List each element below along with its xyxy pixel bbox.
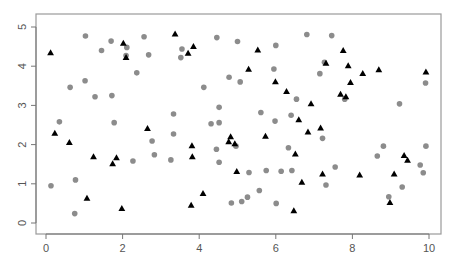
triangle-point <box>113 154 120 160</box>
circle-point <box>179 46 185 52</box>
circle-point <box>273 43 279 49</box>
x-axis: 0246810 <box>43 234 435 254</box>
circle-point <box>420 170 426 176</box>
circle-point <box>178 55 184 61</box>
circle-point <box>278 168 284 174</box>
circle-point <box>48 183 54 189</box>
circle-point <box>239 199 245 205</box>
circle-point <box>289 168 295 174</box>
circle-point <box>99 48 105 54</box>
circle-point <box>216 159 222 165</box>
plot-frame <box>36 14 441 234</box>
triangle-point <box>340 47 347 53</box>
circle-point <box>152 152 158 158</box>
circle-point <box>288 112 294 118</box>
circle-point <box>235 39 241 45</box>
circle-point <box>141 34 147 40</box>
triangle-point <box>375 66 382 72</box>
circle-point <box>201 85 207 91</box>
triangle-point <box>254 47 261 53</box>
circle-point <box>374 153 380 159</box>
y-axis: 012345 <box>16 24 36 226</box>
circle-point <box>226 74 232 80</box>
circle-point <box>294 96 300 102</box>
circle-point <box>149 138 155 144</box>
x-tick-label: 8 <box>349 242 355 254</box>
circle-point <box>83 33 89 39</box>
circle-point <box>332 164 338 170</box>
circle-point <box>111 120 117 126</box>
y-tick-label: 4 <box>16 63 28 69</box>
circle-point <box>381 143 387 149</box>
circle-point <box>399 184 405 190</box>
triangle-point <box>245 66 252 72</box>
triangle-point <box>120 40 127 46</box>
circle-point <box>386 194 392 200</box>
circle-point <box>257 188 263 194</box>
triangle-point <box>387 199 394 205</box>
circle-point <box>67 85 73 91</box>
circle-point <box>168 157 174 163</box>
triangle-point <box>47 49 54 55</box>
circle-point <box>229 200 235 206</box>
triangle-point <box>118 205 125 211</box>
triangle-point <box>359 70 366 76</box>
triangle-point <box>227 133 234 139</box>
circle-point <box>109 93 115 99</box>
triangle-point <box>262 133 269 139</box>
circle-point <box>263 168 269 174</box>
x-tick-label: 0 <box>43 242 49 254</box>
circle-point <box>171 111 177 117</box>
y-tick-label: 0 <box>16 220 28 226</box>
triangle-point <box>308 100 315 106</box>
triangle-point <box>401 152 408 158</box>
circle-point <box>272 118 278 124</box>
triangle-point <box>66 139 73 145</box>
circle-point <box>320 136 326 142</box>
circle-point <box>208 121 214 127</box>
circle-point <box>92 94 98 100</box>
triangle-point <box>51 130 58 136</box>
triangle-point <box>200 190 207 196</box>
x-tick-label: 10 <box>423 242 435 254</box>
triangle-series <box>47 30 429 213</box>
triangle-point <box>90 153 97 159</box>
x-tick-label: 6 <box>273 242 279 254</box>
circle-series <box>48 32 429 217</box>
circle-point <box>271 66 277 72</box>
circle-point <box>329 33 335 39</box>
circle-point <box>258 110 264 116</box>
y-tick-label: 3 <box>16 102 28 108</box>
circle-point <box>73 177 79 183</box>
triangle-point <box>109 160 116 166</box>
triangle-point <box>172 30 179 36</box>
circle-point <box>317 71 323 77</box>
scatter-chart: 0246810 012345 <box>0 0 457 265</box>
circle-point <box>423 143 429 149</box>
circle-point <box>216 105 222 111</box>
triangle-point <box>189 153 196 159</box>
circle-point <box>57 119 63 125</box>
circle-point <box>304 32 310 38</box>
triangle-point <box>189 142 196 148</box>
circle-point <box>245 194 251 200</box>
circle-point <box>397 101 403 107</box>
triangle-point <box>292 150 299 156</box>
circle-point <box>246 170 252 176</box>
triangle-point <box>185 50 192 56</box>
triangle-point <box>144 125 151 131</box>
y-tick-label: 2 <box>16 142 28 148</box>
circle-point <box>82 78 88 84</box>
circle-point <box>323 182 329 188</box>
triangle-point <box>272 78 279 84</box>
triangle-point <box>283 88 290 94</box>
circle-point <box>214 35 220 41</box>
circle-point <box>216 120 222 126</box>
triangle-point <box>423 68 430 74</box>
y-tick-label: 5 <box>16 24 28 30</box>
triangle-point <box>231 140 238 146</box>
circle-point <box>108 38 114 44</box>
triangle-point <box>298 179 305 185</box>
triangle-point <box>233 168 240 174</box>
triangle-point <box>295 116 302 122</box>
